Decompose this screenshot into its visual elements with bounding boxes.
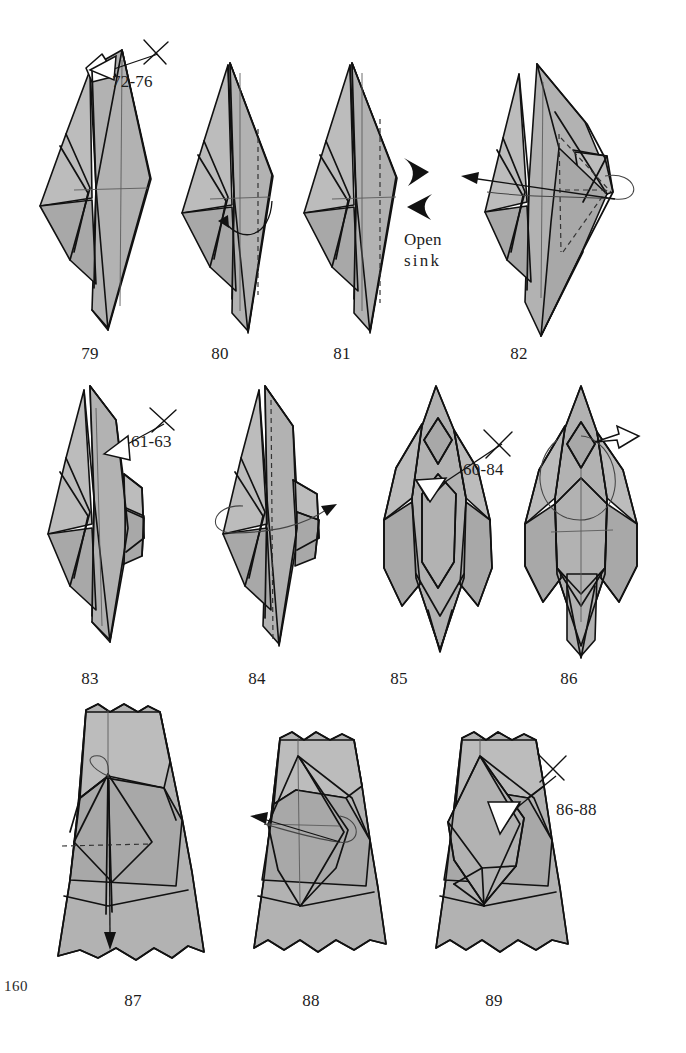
caption-86: 86 — [539, 669, 599, 689]
fig79-flap-lower-left — [40, 200, 96, 284]
fig84-flap-lower-left — [223, 528, 271, 610]
caption-79: 79 — [60, 344, 120, 364]
fig83-flap-lower-left — [48, 528, 96, 610]
fig81-flap-lower-left — [304, 207, 358, 291]
open-sink-line2: sink — [404, 251, 442, 272]
fig79-x-repeat-mark-icon — [144, 40, 168, 64]
fig84-rotate-arrowhead-icon — [321, 504, 337, 516]
annotation-repeat-72-76: 72-76 — [112, 72, 153, 92]
figure-86 — [495, 378, 675, 668]
push-arrow-left-icon — [407, 194, 432, 220]
figure-83 — [32, 378, 212, 668]
figure-88 — [236, 728, 406, 978]
figure-89 — [418, 728, 598, 978]
fig82-arrowhead-left-icon — [461, 172, 479, 184]
push-arrow-right-icon — [404, 158, 429, 186]
caption-83: 83 — [60, 669, 120, 689]
annotation-repeat-86-88: 86-88 — [556, 800, 597, 820]
page-number: 160 — [4, 978, 28, 995]
caption-84: 84 — [227, 669, 287, 689]
fig87-mid-panel — [70, 778, 182, 886]
caption-88: 88 — [281, 991, 341, 1011]
caption-87: 87 — [103, 991, 163, 1011]
annotation-open-sink: Open sink — [404, 230, 442, 271]
fig83-x-repeat-mark-icon — [150, 408, 176, 432]
push-arrow-group — [398, 152, 458, 222]
figure-87 — [36, 700, 236, 980]
fig82-flap-lower-left — [485, 206, 531, 282]
caption-89: 89 — [464, 991, 524, 1011]
caption-82: 82 — [489, 344, 549, 364]
figure-82 — [455, 52, 665, 342]
open-sink-line1: Open — [404, 230, 442, 249]
caption-81: 81 — [312, 344, 372, 364]
annotation-repeat-61-63: 61-63 — [131, 432, 172, 452]
fig88-arrowhead-left-icon — [250, 812, 268, 824]
caption-80: 80 — [190, 344, 250, 364]
diagram-page: 72-76 Open sink — [0, 0, 686, 1053]
caption-85: 85 — [369, 669, 429, 689]
